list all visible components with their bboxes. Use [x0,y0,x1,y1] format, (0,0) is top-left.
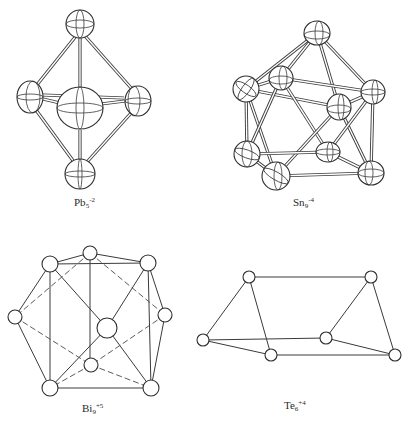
pb-atom-icon [57,87,103,129]
bi-atom-icon [140,255,156,271]
pb5-label: Pb5-2 [74,196,95,210]
sn-atom-icon [316,142,340,162]
pb5-structure [17,10,151,189]
te6-element: Te [284,399,295,411]
pb-atom-icon [17,81,43,113]
te-atom-icon [320,332,332,344]
bi-atom-icon [42,380,58,396]
sn-atom-icon [262,162,290,190]
sn-atom-icon [233,76,259,102]
te6-charge: +4 [298,399,305,407]
pb-atom-icon [125,86,151,116]
sn-atom-icon [233,141,260,167]
sn-atom-icon [327,94,351,120]
bi9-element: Bi [82,402,92,414]
pb5-atoms [17,10,151,189]
bi-atom-icon [158,308,172,322]
sn9-charge: -4 [308,196,314,204]
pb-atom-icon [65,159,95,189]
bi-atom-icon [143,380,159,396]
bi-atom-icon [84,358,98,372]
bi-atom-icon [97,318,117,338]
bi-atom-icon [83,246,97,260]
te-atom-icon [389,349,401,361]
te-atom-icon [265,349,277,361]
sn9-structure [233,21,385,190]
cluster-structures-figure [0,0,406,423]
sn-atom-icon [361,80,385,104]
te-atom-icon [243,271,255,283]
sn9-label: Sn9-4 [293,196,314,210]
bi9-charge: +5 [96,402,103,410]
te6-label: Te6+4 [284,399,306,413]
pb-atom-icon [66,10,94,38]
sn9-bonds [246,33,373,176]
bi9-label: Bi9+5 [82,402,103,416]
te6-bonds [203,277,395,355]
bi9-structure [8,246,172,396]
sn-atom-icon [269,66,293,90]
pb5-element: Pb [74,196,86,208]
sn9-element: Sn [293,196,305,208]
te6-structure [197,271,401,361]
te6-atoms [197,271,401,361]
sn-atom-icon [358,161,384,185]
pb5-charge: -2 [89,196,95,204]
bi-atom-icon [8,310,22,324]
te-atom-icon [365,271,377,283]
bi-atom-icon [42,256,58,272]
sn-atom-icon [304,21,330,45]
te-atom-icon [197,334,209,346]
